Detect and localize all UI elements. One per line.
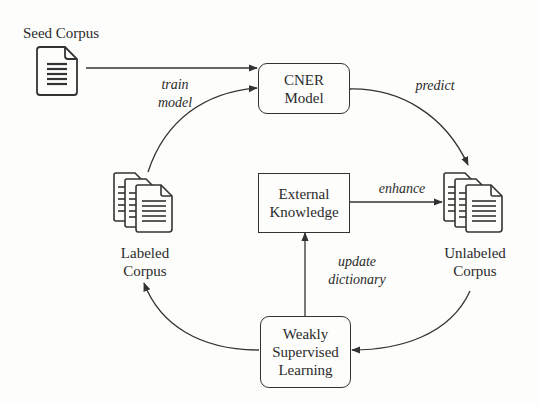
labeled-corpus-line2: Corpus xyxy=(100,262,190,280)
model-label: model xyxy=(148,94,202,112)
seed-corpus-label: Seed Corpus xyxy=(14,24,108,42)
external-knowledge-line2: Knowledge xyxy=(269,203,338,221)
edge-label-update-dictionary: update dictionary xyxy=(318,253,396,289)
cner-model-line2: Model xyxy=(284,89,323,107)
documents-stack-icon xyxy=(114,173,172,232)
document-icon xyxy=(37,47,77,95)
unlabeled-corpus-line2: Corpus xyxy=(430,262,520,280)
update-label: update xyxy=(318,253,396,271)
labeled-corpus-line1: Labeled xyxy=(100,244,190,262)
edge-label-enhance: enhance xyxy=(370,180,434,198)
external-knowledge-line1: External xyxy=(279,185,330,203)
edge-label-predict: predict xyxy=(405,77,465,95)
unlabeled-corpus-line1: Unlabeled xyxy=(430,244,520,262)
wsl-line3: Learning xyxy=(278,361,332,379)
labeled-corpus-label: Labeled Corpus xyxy=(100,244,190,280)
weakly-supervised-learning-node: Weakly Supervised Learning xyxy=(260,316,351,388)
cner-model-line1: CNER xyxy=(284,71,324,89)
dictionary-label: dictionary xyxy=(318,271,396,289)
wsl-line2: Supervised xyxy=(272,343,339,361)
unlabeled-corpus-label: Unlabeled Corpus xyxy=(430,244,520,280)
train-label: train xyxy=(148,76,202,94)
external-knowledge-node: External Knowledge xyxy=(258,173,350,233)
arrow-cner-to-unlabeled xyxy=(350,89,468,165)
edge-label-train-model: train model xyxy=(148,76,202,112)
arrow-wsl-to-labeled xyxy=(144,283,259,350)
documents-stack-icon xyxy=(444,173,502,232)
cner-model-node: CNER Model xyxy=(258,63,350,114)
arrow-unlabeled-to-wsl xyxy=(352,291,470,350)
wsl-line1: Weakly xyxy=(283,325,328,343)
